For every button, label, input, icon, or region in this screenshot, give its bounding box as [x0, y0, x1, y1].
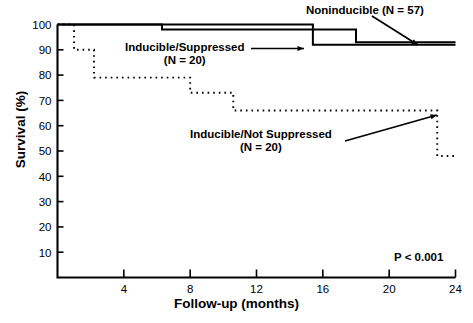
annotation-inducible-not-suppressed-line2: (N = 20)	[240, 141, 282, 153]
y-tick-label-100: 100	[32, 19, 51, 31]
annotation-inducible-not-suppressed-line1: Inducible/Not Suppressed	[190, 128, 332, 140]
y-tick-label-40: 40	[39, 171, 52, 183]
x-tick-label-16: 16	[316, 283, 329, 295]
annotation-leader-lines	[251, 16, 437, 141]
y-tick-label-10: 10	[39, 247, 52, 259]
y-axis-label: Survival (%)	[13, 70, 28, 190]
annotation-inducible-suppressed-line2: (N = 20)	[164, 54, 206, 66]
y-tick-label-50: 50	[39, 145, 52, 157]
y-tick-label-20: 20	[39, 221, 52, 233]
y-tick-label-60: 60	[39, 120, 52, 132]
y-tick-label-30: 30	[39, 196, 52, 208]
y-tick-label-80: 80	[39, 69, 52, 81]
y-tick-label-90: 90	[39, 44, 52, 56]
x-tick-label-24: 24	[449, 283, 462, 295]
y-tick-label-70: 70	[39, 95, 52, 107]
annotation-inducible-suppressed: Inducible/Suppressed(N = 20)	[125, 41, 245, 67]
x-tick-label-20: 20	[383, 283, 396, 295]
x-tick-label-8: 8	[187, 283, 193, 295]
leader-arrowhead	[298, 46, 305, 51]
annotation-inducible-not-suppressed: Inducible/Not Suppressed(N = 20)	[190, 128, 332, 154]
leader-line	[372, 16, 418, 45]
series-curve-0	[58, 25, 456, 43]
leader-arrowhead	[430, 114, 437, 119]
annotation-noninducible: Noninducible (N = 57)	[306, 4, 424, 17]
x-tick-label-12: 12	[250, 283, 263, 295]
survival-chart-figure: 1020304050607080901004812162024 Noninduc…	[0, 0, 473, 323]
x-axis-label: Follow-up (months)	[0, 296, 473, 311]
leader-line	[345, 115, 437, 141]
x-tick-label-4: 4	[121, 283, 128, 295]
axis-ticks	[58, 50, 456, 278]
annotation-inducible-suppressed-line1: Inducible/Suppressed	[125, 41, 245, 53]
annotation-p-value: P < 0.001	[394, 251, 443, 264]
